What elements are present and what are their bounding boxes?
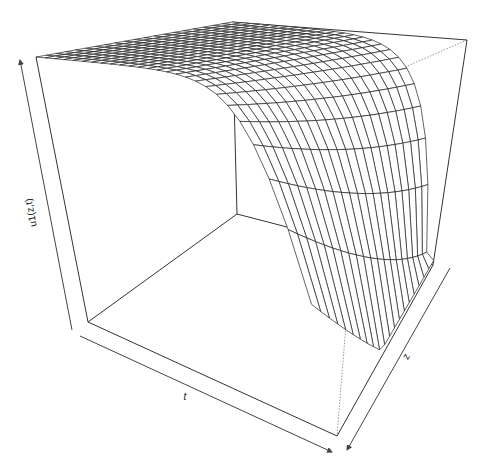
u-axis-label: u1(z,t) — [22, 198, 38, 228]
surface-mesh — [36, 22, 434, 350]
surface-plot: u1(z,t) t z — [0, 0, 484, 473]
t-axis-label: t — [184, 391, 188, 402]
z-axis-label: z — [400, 351, 412, 361]
box-edge-back-left-bottom — [88, 214, 237, 322]
box-edge-front-bottom — [88, 322, 337, 436]
u-axis-arrow — [20, 60, 72, 330]
mesh-cell — [422, 185, 428, 255]
box-edge-left-vertical — [36, 57, 88, 322]
t-axis-arrow — [80, 336, 332, 452]
box-edge-right-vertical — [433, 40, 467, 265]
